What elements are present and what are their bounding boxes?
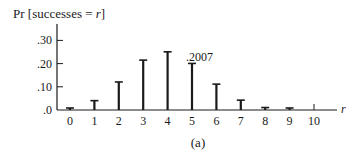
x-tick-label: 8 [262, 114, 268, 128]
x-tick-label: 5 [189, 114, 195, 128]
y-tick-label: .20 [37, 57, 52, 71]
y-axis-label-prefix: Pr [successes = [13, 6, 96, 21]
binomial-distribution-chart: Pr [successes = r] r.0.10.20.30 01234567… [0, 0, 362, 151]
x-tick-label: 0 [67, 114, 73, 128]
x-axis-label: r [341, 102, 346, 116]
x-tick-label: 6 [213, 114, 219, 128]
x-tick-label: 10 [308, 114, 320, 128]
value-annotation: .2007 [186, 50, 213, 64]
x-tick-label: 3 [140, 114, 146, 128]
x-tick-label: 4 [165, 114, 171, 128]
y-axis-label: Pr [successes = r] [13, 6, 105, 21]
x-tick-label: 9 [287, 114, 293, 128]
y-tick-label: .30 [37, 33, 52, 47]
bars: 012345678910.2007 [66, 50, 320, 128]
x-tick-label: 2 [116, 114, 122, 128]
y-tick-label: .10 [37, 80, 52, 94]
figure-caption: (a) [191, 135, 205, 150]
y-tick-label: .0 [43, 103, 52, 117]
x-tick-label: 1 [91, 114, 97, 128]
x-tick-label: 7 [238, 114, 244, 128]
